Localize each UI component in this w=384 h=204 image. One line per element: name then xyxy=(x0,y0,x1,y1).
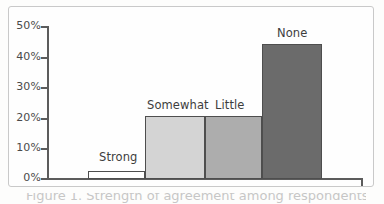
y-tick-label-0: 0% xyxy=(3,171,41,184)
bar-strong xyxy=(88,171,145,179)
bar-label-none: None xyxy=(277,26,307,40)
y-tick-label-10: 10% xyxy=(3,141,41,154)
bar-somewhat xyxy=(145,116,205,179)
figure: 50% 40% 30% 20% 10% 0% Strong Somewhat L… xyxy=(0,0,384,204)
bar-label-strong: Strong xyxy=(99,150,138,164)
y-tick-mark-40 xyxy=(41,57,47,59)
y-tick-label-50: 50% xyxy=(3,19,41,32)
y-tick-label-40: 40% xyxy=(3,50,41,63)
x-axis-end-tick xyxy=(361,178,363,186)
bar-chart-plot: 50% 40% 30% 20% 10% 0% Strong Somewhat L… xyxy=(0,0,384,204)
figure-caption-text: Figure 1. Strength of agreement among re… xyxy=(26,193,366,202)
y-tick-mark-10 xyxy=(41,148,47,150)
y-tick-label-20: 20% xyxy=(3,111,41,124)
y-axis-line xyxy=(47,26,49,180)
bar-label-somewhat: Somewhat xyxy=(147,98,209,112)
figure-caption: Figure 1. Strength of agreement among re… xyxy=(26,193,366,204)
bar-label-little: Little xyxy=(215,98,245,112)
y-tick-mark-0 xyxy=(41,178,47,180)
y-tick-mark-50 xyxy=(41,26,47,28)
y-tick-mark-30 xyxy=(41,87,47,89)
y-tick-label-30: 30% xyxy=(3,80,41,93)
bar-little xyxy=(205,116,262,179)
y-tick-mark-20 xyxy=(41,118,47,120)
bar-none xyxy=(262,44,322,179)
